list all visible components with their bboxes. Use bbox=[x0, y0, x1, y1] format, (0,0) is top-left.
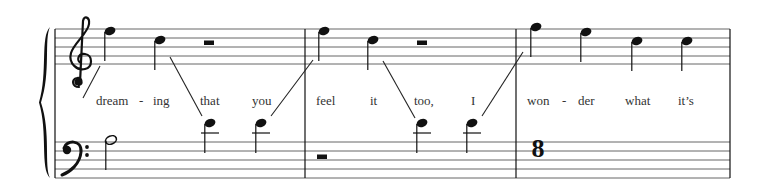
voice-leading-line bbox=[383, 61, 415, 118]
lyric-syllable: it bbox=[370, 93, 378, 108]
lyric-syllable: won bbox=[527, 93, 550, 108]
bass-half bbox=[104, 134, 117, 170]
lyric-syllable: feel bbox=[316, 93, 336, 108]
half-rest-icon bbox=[317, 155, 327, 160]
bass-quarter bbox=[463, 117, 481, 153]
treble-clef-dot bbox=[74, 78, 81, 85]
brace-icon bbox=[39, 27, 50, 178]
lyric-syllable: it’s bbox=[678, 93, 694, 108]
lyric-syllable: - bbox=[139, 93, 143, 108]
bass-quarter bbox=[413, 117, 431, 153]
lyric-syllable: I bbox=[471, 93, 475, 108]
treble-quarter bbox=[630, 35, 643, 71]
bass-clef-icon bbox=[62, 142, 89, 175]
bass-clef-dot-lower bbox=[85, 153, 89, 157]
treble-clef-shape bbox=[70, 17, 91, 87]
half-rest-icon bbox=[204, 41, 214, 46]
bass-quarter bbox=[252, 117, 270, 153]
treble-quarter bbox=[366, 34, 379, 70]
lyric-syllable: that bbox=[200, 93, 220, 108]
notes: 8 bbox=[103, 21, 693, 170]
treble-quarter bbox=[579, 26, 592, 62]
voice-leading-line bbox=[482, 52, 523, 116]
lyric-syllable: - bbox=[562, 93, 566, 108]
lyric-syllable: der bbox=[578, 93, 595, 108]
figure-eight-glyph: 8 bbox=[532, 134, 545, 163]
lyric-syllable: dream bbox=[96, 93, 128, 108]
bass-quarter bbox=[201, 117, 219, 153]
voice-leading-lines bbox=[83, 52, 523, 118]
lyrics: dream-ingthatyoufeelittoo,Iwon-derwhatit… bbox=[96, 93, 694, 108]
half-rest-icon bbox=[417, 41, 427, 46]
voice-leading-line bbox=[271, 60, 313, 116]
lyric-syllable: ing bbox=[153, 93, 170, 108]
bass-clef-curve bbox=[62, 142, 81, 175]
bass-clef-dot-upper bbox=[85, 145, 89, 149]
treble-clef-icon bbox=[70, 17, 91, 87]
treble-quarter bbox=[153, 34, 166, 70]
treble-quarter bbox=[680, 35, 693, 71]
lyric-syllable: too, bbox=[414, 93, 434, 108]
music-score: 8 dream-ingthatyoufeelittoo,Iwon-derwhat… bbox=[0, 0, 766, 191]
voice-leading-line bbox=[170, 57, 202, 116]
bass-figure: 8 bbox=[532, 134, 545, 163]
lyric-syllable: you bbox=[252, 93, 272, 108]
treble-quarter bbox=[529, 21, 542, 57]
lyric-syllable: what bbox=[625, 93, 651, 108]
bass-half-rest bbox=[317, 155, 327, 160]
treble-half-rest bbox=[204, 41, 214, 46]
treble-half-rest bbox=[417, 41, 427, 46]
measure-2 bbox=[317, 25, 481, 159]
grand-staff-brace bbox=[39, 27, 50, 178]
